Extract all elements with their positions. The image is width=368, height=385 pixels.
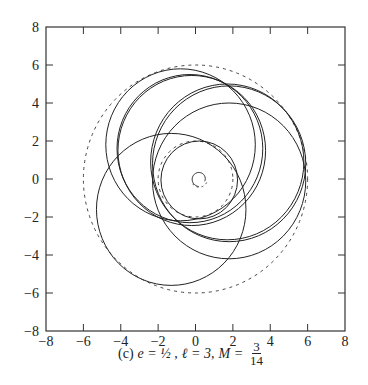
x-tick-label: 6 — [304, 334, 311, 349]
y-tick-label: −6 — [24, 286, 39, 301]
inner-bound — [158, 141, 233, 217]
caption-angular-momentum: ℓ = 3, — [182, 346, 215, 362]
orbit-loop-3 — [153, 103, 306, 259]
caption-mass-prefix: M = — [219, 346, 244, 362]
outer-bound — [83, 65, 307, 293]
y-tick-label: 0 — [32, 172, 39, 187]
orbit-curves — [83, 65, 307, 293]
y-tick-label: 6 — [32, 58, 39, 73]
y-tick-label: −4 — [24, 248, 39, 263]
orbit-plot: −8−6−4−20246886420−2−4−6−8 — [0, 0, 368, 385]
x-tick-label: −6 — [76, 334, 91, 349]
figure-caption: (c) e = ½ , ℓ = 3, M = 3 14 — [118, 340, 263, 367]
fraction-numerator: 3 — [252, 340, 261, 354]
caption-eccentricity: e = ½ , — [138, 346, 178, 362]
x-tick-label: −8 — [39, 334, 54, 349]
x-tick-label: 8 — [342, 334, 349, 349]
fraction-denominator: 14 — [250, 354, 263, 367]
plot-frame — [46, 27, 345, 331]
caption-mass-fraction: 3 14 — [250, 340, 263, 367]
y-tick-label: 8 — [32, 20, 39, 35]
y-tick-label: −8 — [24, 324, 39, 339]
caption-label: (c) — [118, 346, 134, 362]
y-tick-label: −2 — [24, 210, 39, 225]
orbit-loop-5b — [153, 86, 306, 242]
plot-border — [46, 27, 345, 331]
y-tick-label: 4 — [32, 96, 39, 111]
orbit-loop-6 — [161, 141, 238, 219]
y-tick-label: 2 — [32, 134, 39, 149]
x-tick-label: 4 — [267, 334, 274, 349]
central-spiral — [192, 172, 205, 186]
